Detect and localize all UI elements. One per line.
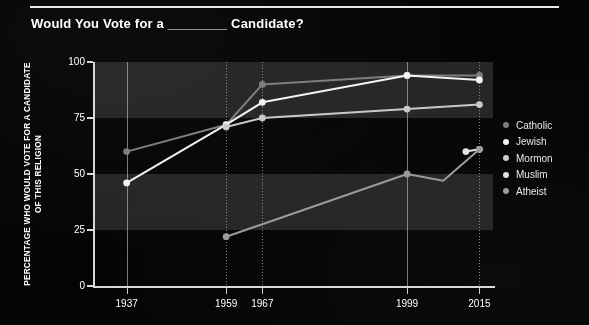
legend-label: Muslim	[516, 169, 548, 180]
legend-label: Jewish	[516, 136, 547, 147]
data-point-jewish-1937	[123, 180, 130, 187]
series-line-jewish	[127, 75, 480, 183]
series-jewish	[123, 72, 483, 186]
legend: CatholicJewishMormonMuslimAtheist	[503, 117, 587, 200]
legend-item-mormon[interactable]: Mormon	[503, 150, 587, 167]
series-layer	[0, 0, 589, 325]
legend-item-catholic[interactable]: Catholic	[503, 117, 587, 134]
legend-label: Catholic	[516, 120, 552, 131]
legend-item-jewish[interactable]: Jewish	[503, 134, 587, 151]
legend-dot-icon	[503, 172, 509, 178]
data-point-catholic-1937	[123, 148, 130, 155]
legend-dot-icon	[503, 155, 509, 161]
data-point-atheist-1999	[404, 171, 411, 178]
legend-label: Atheist	[516, 186, 547, 197]
series-line-catholic	[127, 75, 480, 151]
data-point-mormon-1967	[259, 115, 266, 122]
data-point-jewish-2015	[476, 77, 483, 84]
series-line-atheist	[226, 149, 479, 236]
data-point-mormon-2015	[476, 101, 483, 108]
data-point-jewish-1999	[404, 72, 411, 79]
series-atheist	[223, 146, 483, 240]
data-point-catholic-1967	[259, 81, 266, 88]
data-point-atheist-2015	[476, 146, 483, 153]
data-point-atheist-1959	[223, 233, 230, 240]
legend-label: Mormon	[516, 153, 553, 164]
data-point-jewish-1967	[259, 99, 266, 106]
chart-screenshot: Would You Vote for a ________ Candidate?…	[0, 0, 589, 325]
legend-dot-icon	[503, 122, 509, 128]
legend-item-muslim[interactable]: Muslim	[503, 167, 587, 184]
data-point-mormon-1959	[223, 124, 230, 131]
series-catholic	[123, 72, 483, 155]
legend-dot-icon	[503, 139, 509, 145]
legend-item-atheist[interactable]: Atheist	[503, 183, 587, 200]
data-point-mormon-1999	[404, 106, 411, 113]
data-point-muslim-2012	[462, 148, 469, 155]
legend-dot-icon	[503, 188, 509, 194]
